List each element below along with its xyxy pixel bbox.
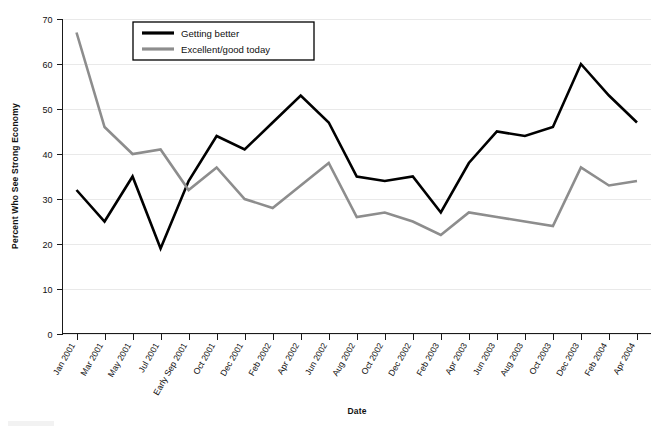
y-tick-label: 30	[42, 195, 52, 205]
y-tick-label: 60	[42, 60, 52, 70]
line-chart-canvas: 010203040506070 Jan 2001Mar 2001May 2001…	[0, 0, 662, 431]
page-footer-artifact	[8, 421, 54, 426]
legend-label-excellent-good-today: Excellent/good today	[181, 44, 270, 55]
y-tick-label: 70	[42, 15, 52, 25]
y-tick-label: 40	[42, 150, 52, 160]
y-tick-label: 20	[42, 240, 52, 250]
y-tick-label: 0	[47, 330, 52, 340]
x-axis-ticks-group	[78, 334, 638, 340]
chart-figure: 010203040506070 Jan 2001Mar 2001May 2001…	[0, 0, 662, 431]
y-tick-label: 50	[42, 105, 52, 115]
x-axis-title: Date	[347, 406, 366, 416]
y-axis-title: Percent Who See Strong Economy	[10, 103, 20, 249]
chart-legend: Getting better Excellent/good today	[133, 22, 314, 60]
y-tick-label: 10	[42, 285, 52, 295]
legend-label-getting-better: Getting better	[181, 28, 240, 39]
